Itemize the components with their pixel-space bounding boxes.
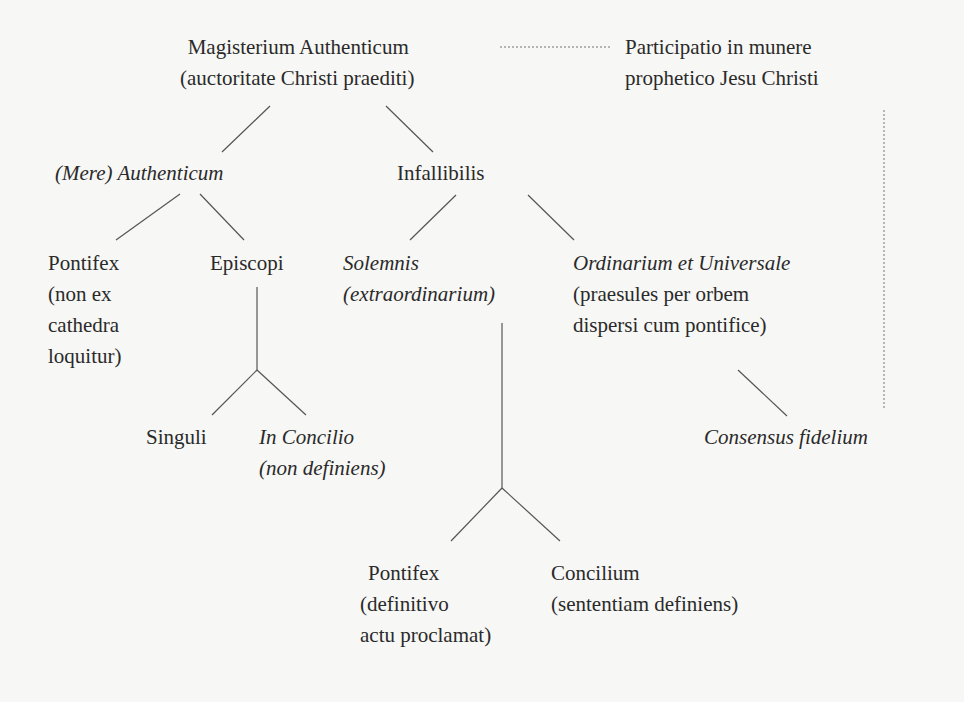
edge-root-to-mere-authenticum <box>222 106 270 152</box>
edge-root-to-infallibilis <box>386 106 433 152</box>
node-title: In Concilio <box>259 422 386 453</box>
node-subtitle: (non definiens) <box>259 453 386 484</box>
node-title: (Mere) Authenticum <box>55 158 224 189</box>
node-magisterium-authenticum: Magisterium Authenticum (auctoritate Chr… <box>180 32 414 94</box>
node-singuli: Singuli <box>146 422 207 453</box>
node-participatio: Participatio in munere prophetico Jesu C… <box>625 32 819 94</box>
node-pontifex-non-ex-cathedra: Pontifex (non ex cathedra loquitur) <box>48 248 122 372</box>
node-line-3: cathedra <box>48 310 122 341</box>
node-subtitle: (extraordinarium) <box>343 279 495 310</box>
edge-infallibilis-to-ordinarium <box>528 195 574 240</box>
node-line-4: loquitur) <box>48 341 122 372</box>
node-line-3: dispersi cum pontifice) <box>573 310 790 341</box>
node-episcopi: Episcopi <box>210 248 284 279</box>
node-line-1: Pontifex <box>360 558 491 589</box>
edge-episcopi-to-singuli <box>212 370 257 415</box>
node-title: Singuli <box>146 422 207 453</box>
node-line-2: (praesules per orbem <box>573 279 790 310</box>
node-line-2: prophetico Jesu Christi <box>625 63 819 94</box>
node-pontifex-definitivo: Pontifex (definitivo actu proclamat) <box>360 558 491 651</box>
node-ordinarium-et-universale: Ordinarium et Universale (praesules per … <box>573 248 790 341</box>
node-title: Concilium <box>551 558 738 589</box>
edge-mere-to-pontifex <box>116 194 180 240</box>
node-line-1: Pontifex <box>48 248 122 279</box>
node-subtitle: (auctoritate Christi praediti) <box>180 63 414 94</box>
node-line-2: (definitivo <box>360 589 491 620</box>
node-title: Episcopi <box>210 248 284 279</box>
node-title: Magisterium Authenticum <box>180 32 414 63</box>
node-title: Consensus fidelium <box>704 422 868 453</box>
edge-episcopi-to-in-concilio <box>257 370 306 415</box>
edge-ordinarium-to-consensus <box>738 370 787 416</box>
node-solemnis: Solemnis (extraordinarium) <box>343 248 495 310</box>
node-title: Ordinarium et Universale <box>573 248 790 279</box>
edge-infallibilis-to-solemnis <box>410 195 456 240</box>
node-title: Solemnis <box>343 248 495 279</box>
edge-solemnis-to-pontifex <box>451 488 502 541</box>
node-mere-authenticum: (Mere) Authenticum <box>55 158 224 189</box>
node-line-1: Participatio in munere <box>625 32 819 63</box>
node-infallibilis: Infallibilis <box>397 158 485 189</box>
node-title: Infallibilis <box>397 158 485 189</box>
edge-solemnis-to-concilium <box>502 488 560 541</box>
node-consensus-fidelium: Consensus fidelium <box>704 422 868 453</box>
node-in-concilio: In Concilio (non definiens) <box>259 422 386 484</box>
node-line-2: (non ex <box>48 279 122 310</box>
edge-mere-to-episcopi <box>200 194 244 240</box>
node-concilium: Concilium (sententiam definiens) <box>551 558 738 620</box>
node-subtitle: (sententiam definiens) <box>551 589 738 620</box>
node-line-3: actu proclamat) <box>360 620 491 651</box>
